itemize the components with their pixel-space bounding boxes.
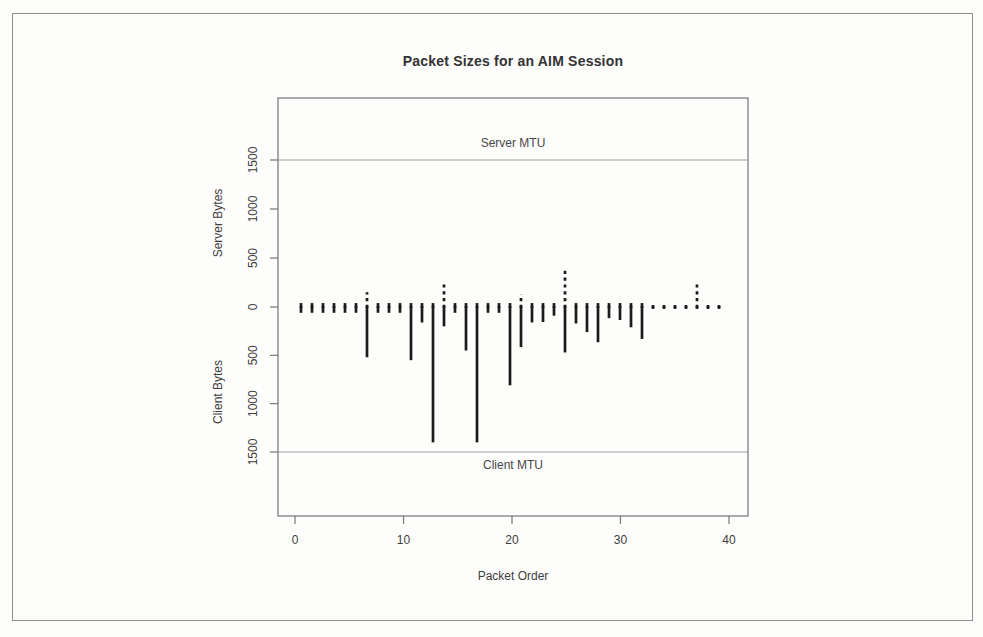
y-axis-tick-label: 1500 <box>246 438 260 465</box>
y-axis-tick-label: 500 <box>246 248 260 268</box>
y-axis-label-server: Server Bytes <box>211 189 225 258</box>
plot-box <box>278 98 748 516</box>
y-axis-tick-label: 1500 <box>246 146 260 173</box>
x-axis-tick-label: 40 <box>722 533 736 547</box>
client-mtu-annotation: Client MTU <box>278 458 748 472</box>
x-axis-label: Packet Order <box>278 569 748 583</box>
x-axis-tick-label: 30 <box>614 533 628 547</box>
chart-title: Packet Sizes for an AIM Session <box>278 53 748 69</box>
plot-area: 15001000500050010001500010203040 <box>0 0 983 637</box>
y-axis-label-client: Client Bytes <box>211 360 225 424</box>
y-axis-tick-label: 500 <box>246 345 260 365</box>
x-axis-tick-label: 20 <box>505 533 519 547</box>
x-axis-tick-label: 0 <box>292 533 299 547</box>
y-axis-tick-label: 1000 <box>246 390 260 417</box>
y-axis-tick-label: 0 <box>246 303 260 310</box>
scanned-figure-page: 15001000500050010001500010203040 Packet … <box>0 0 983 637</box>
server-mtu-annotation: Server MTU <box>278 136 748 150</box>
y-axis-tick-label: 1000 <box>246 195 260 222</box>
x-axis-tick-label: 10 <box>397 533 411 547</box>
